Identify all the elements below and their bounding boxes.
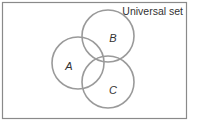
universal-set-label: Universal set [122,5,183,17]
set-a-label: A [64,60,72,72]
venn-diagram: Universal set A B C [0,0,197,121]
set-c-label: C [109,84,117,96]
set-b-label: B [109,32,116,44]
